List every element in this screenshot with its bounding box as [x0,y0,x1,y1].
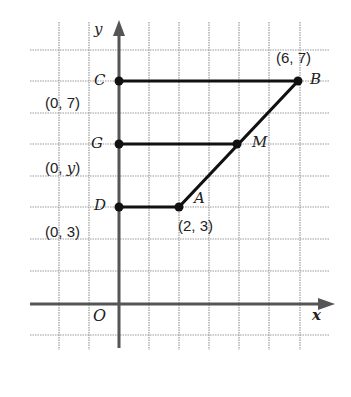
point-C-label: C [94,73,105,88]
point-C [115,77,124,86]
point-B-coord: (6, 7) [276,50,311,65]
point-A [175,203,184,212]
y-axis-label: y [94,22,102,37]
point-G [115,140,124,149]
point-C-coord: (0, 7) [45,95,80,110]
point-B [294,77,303,86]
x-axis-label: x [312,308,321,323]
point-B-label: B [310,72,321,87]
point-M [233,140,242,149]
point-D-coord: (0, 3) [45,224,80,239]
point-D-label: D [94,198,106,213]
point-G-coord: (0, y) [45,160,80,176]
point-G-label: G [91,136,103,151]
point-A-label: A [194,191,205,206]
y-axis-arrow-icon [113,20,125,36]
point-D [115,203,124,212]
origin-label: O [93,308,106,324]
point-A-coord: (2, 3) [178,218,213,233]
point-M-label: M [252,135,267,150]
